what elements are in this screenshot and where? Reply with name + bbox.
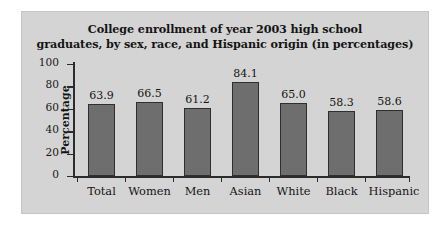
x-tick-4 bbox=[269, 176, 270, 182]
y-tick-40: 40 bbox=[67, 131, 73, 132]
x-label-white: White bbox=[267, 184, 320, 198]
chart-panel: College enrollment of year 2003 high sch… bbox=[22, 12, 428, 213]
y-tick-label-0: 0 bbox=[52, 168, 59, 180]
x-tick-5 bbox=[317, 176, 318, 182]
y-tick-100: 100 bbox=[67, 64, 73, 65]
bar-white[interactable]: 65.0 bbox=[280, 103, 307, 176]
x-label-hispanic: Hispanic bbox=[361, 184, 427, 198]
y-tick-0: 0 bbox=[67, 176, 73, 177]
x-axis-line bbox=[73, 176, 410, 178]
bar-total[interactable]: 63.9 bbox=[88, 104, 115, 176]
x-tick-3 bbox=[221, 176, 222, 182]
chart-title-line-1: College enrollment of year 2003 high sch… bbox=[22, 22, 428, 37]
x-tick-1 bbox=[125, 176, 126, 182]
plot-area: Percentage 100 80 60 40 20 0 bbox=[73, 64, 410, 176]
x-tick-6 bbox=[365, 176, 366, 182]
bar-value-men: 61.2 bbox=[185, 93, 210, 106]
y-tick-60: 60 bbox=[67, 109, 73, 110]
x-tick-2 bbox=[173, 176, 174, 182]
x-label-black: Black bbox=[316, 184, 367, 198]
bar-value-black: 58.3 bbox=[329, 96, 354, 109]
y-axis-line bbox=[73, 62, 75, 178]
bar-value-asian: 84.1 bbox=[233, 67, 258, 80]
chart-figure: College enrollment of year 2003 high sch… bbox=[0, 0, 447, 232]
y-tick-label-40: 40 bbox=[46, 123, 59, 135]
x-tick-7 bbox=[409, 176, 410, 182]
y-axis-label: Percentage bbox=[59, 85, 72, 154]
bar-women[interactable]: 66.5 bbox=[136, 102, 163, 177]
chart-title: College enrollment of year 2003 high sch… bbox=[22, 22, 428, 52]
y-tick-label-20: 20 bbox=[46, 146, 59, 158]
x-label-men: Men bbox=[173, 184, 222, 198]
bar-asian[interactable]: 84.1 bbox=[232, 82, 259, 176]
y-tick-80: 80 bbox=[67, 86, 73, 87]
x-label-women: Women bbox=[120, 184, 179, 198]
bar-value-white: 65.0 bbox=[281, 88, 306, 101]
x-label-asian: Asian bbox=[219, 184, 272, 198]
bar-value-women: 66.5 bbox=[137, 87, 162, 100]
bar-value-total: 63.9 bbox=[89, 89, 114, 102]
x-tick-0 bbox=[77, 176, 78, 182]
chart-title-line-2: graduates, by sex, race, and Hispanic or… bbox=[22, 37, 428, 52]
bar-men[interactable]: 61.2 bbox=[184, 108, 211, 177]
bar-hispanic[interactable]: 58.6 bbox=[376, 110, 403, 176]
y-tick-label-60: 60 bbox=[46, 101, 59, 113]
y-tick-label-100: 100 bbox=[39, 56, 59, 68]
bar-black[interactable]: 58.3 bbox=[328, 111, 355, 176]
bar-value-hispanic: 58.6 bbox=[377, 95, 402, 108]
y-tick-label-80: 80 bbox=[46, 78, 59, 90]
y-tick-20: 20 bbox=[67, 154, 73, 155]
